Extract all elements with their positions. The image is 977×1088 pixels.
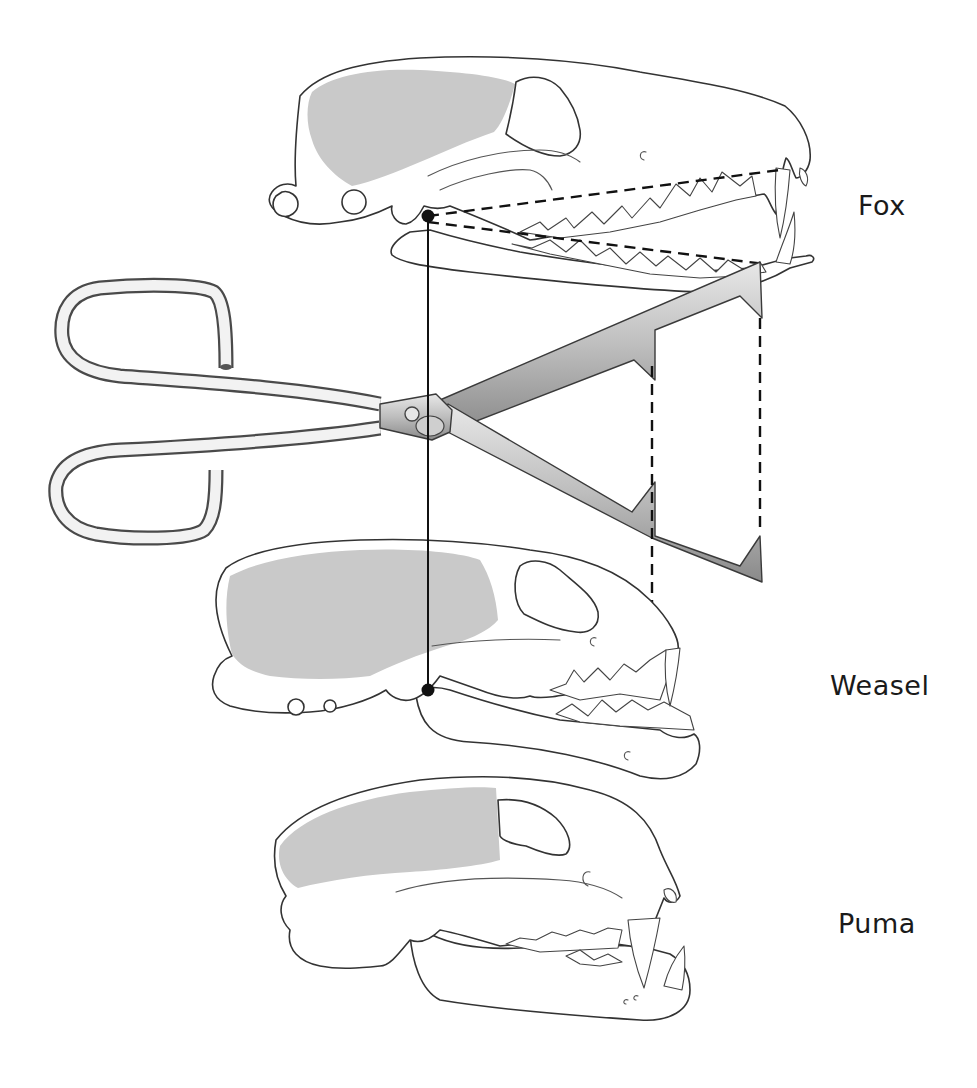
jaw-pivot-weasel <box>422 684 435 697</box>
tongs-pivot-screw <box>405 407 419 421</box>
fox-occipital <box>273 192 298 217</box>
fox-auditory-bulla <box>342 190 366 214</box>
tongs <box>56 262 762 582</box>
tongs-hinge-knuckle <box>416 416 444 436</box>
weasel-skull <box>213 539 700 778</box>
label-weasel: Weasel <box>830 670 929 701</box>
tongs-upper-arm <box>440 262 762 432</box>
weasel-mandible <box>416 688 700 779</box>
weasel-auditory-bulla-2 <box>324 700 336 712</box>
label-fox: Fox <box>858 190 906 221</box>
tongs-upper-handle-highlight <box>62 285 380 404</box>
jaw-pivot-fox <box>422 210 435 223</box>
weasel-auditory-bulla-1 <box>288 699 304 715</box>
label-puma: Puma <box>838 908 916 939</box>
jaw-comparison-diagram <box>0 0 977 1088</box>
fox-skull <box>269 57 813 292</box>
fox-upper-canine <box>775 168 790 238</box>
tongs-handle-end <box>220 364 232 370</box>
puma-skull <box>274 777 690 1020</box>
weasel-upper-canine <box>665 648 680 706</box>
